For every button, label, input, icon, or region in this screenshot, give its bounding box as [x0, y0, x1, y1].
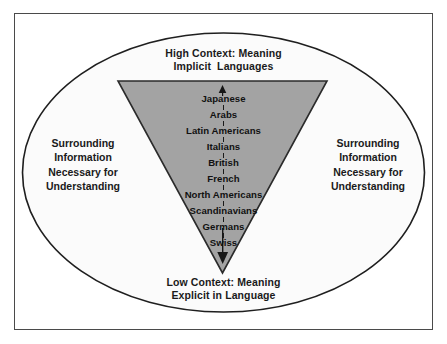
culture-list-item: Scandinavians — [0, 206, 447, 217]
culture-list-item: Japanese — [0, 94, 447, 105]
culture-list-item: French — [0, 174, 447, 185]
high-context-label: High Context: Meaning Implicit Languages — [0, 47, 447, 73]
low-context-label: Low Context: Meaning Explicit in Languag… — [0, 276, 447, 302]
culture-list-item: Latin Americans — [0, 126, 447, 137]
culture-list-item: Swiss — [0, 238, 447, 249]
culture-list-item: Italians — [0, 142, 447, 153]
culture-list-item: North Americans — [0, 190, 447, 201]
culture-list-item: Germans — [0, 222, 447, 233]
culture-scale-list: JapaneseArabsLatin AmericansItaliansBrit… — [0, 94, 447, 249]
culture-list-item: Arabs — [0, 110, 447, 121]
diagram-text-layer: High Context: Meaning Implicit Languages… — [0, 0, 447, 344]
culture-list-item: British — [0, 158, 447, 169]
context-culture-diagram: High Context: Meaning Implicit Languages… — [0, 0, 447, 344]
